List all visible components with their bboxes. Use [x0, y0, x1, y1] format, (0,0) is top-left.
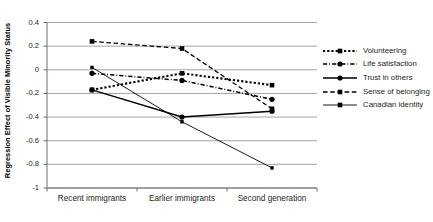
- data-point-marker: [270, 106, 275, 111]
- legend-marker: [338, 103, 343, 108]
- data-point-marker: [180, 120, 183, 123]
- legend-label: Sense of belonging: [363, 87, 430, 97]
- data-point-marker: [179, 114, 184, 119]
- data-point-marker: [180, 46, 185, 51]
- chart-legend: VolunteeringLife satisfactionTrust in ot…: [322, 44, 430, 112]
- legend-key-swatch: [322, 86, 358, 98]
- data-point-marker: [269, 97, 274, 102]
- series-line: [92, 73, 272, 99]
- data-point-marker: [89, 87, 94, 92]
- legend-label: Life satisfaction: [363, 59, 417, 69]
- data-point-marker: [90, 39, 95, 44]
- legend-item-trust-in-others: Trust in others: [322, 71, 430, 85]
- legend-item-life-satisfaction: Life satisfaction: [322, 58, 430, 72]
- data-point-marker: [179, 78, 184, 83]
- legend-marker: [338, 89, 343, 94]
- legend-label: Volunteering: [363, 46, 406, 56]
- data-point-marker: [180, 71, 185, 76]
- data-point-marker: [89, 71, 94, 76]
- data-point-marker: [90, 66, 93, 69]
- data-point-marker: [270, 166, 273, 169]
- legend-marker: [337, 62, 342, 67]
- legend-key-swatch: [322, 45, 358, 57]
- legend-key-swatch: [322, 99, 358, 111]
- regression-effect-line-chart: Regression Effect of Visible Minority St…: [0, 0, 433, 222]
- legend-marker: [337, 75, 342, 80]
- legend-label: Trust in others: [363, 73, 413, 83]
- legend-item-sense-of-belonging: Sense of belonging: [322, 85, 430, 99]
- data-point-marker: [270, 83, 275, 88]
- legend-item-volunteering: Volunteering: [322, 44, 430, 58]
- legend-marker: [338, 48, 343, 53]
- legend-item-canadian-identity: Canadian identity: [322, 98, 430, 112]
- legend-key-swatch: [322, 72, 358, 84]
- legend-label: Canadian identity: [363, 100, 423, 110]
- legend-key-swatch: [322, 58, 358, 70]
